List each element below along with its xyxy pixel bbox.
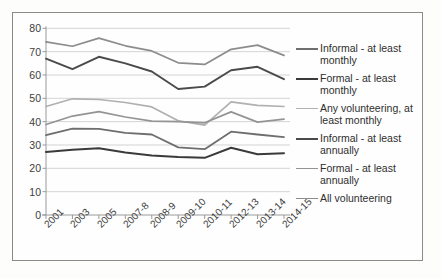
legend-item[interactable]: Informal - at least monthly [296,43,422,66]
line-chart-svg [13,13,290,262]
legend-item[interactable]: Formal - at least monthly [296,73,422,96]
legend-item[interactable]: All volunteering [296,193,422,205]
plot-area: 01020304050607080 2001200320052007-82008… [13,13,290,262]
series-line-formal-monthly [46,148,284,158]
legend-line-swatch [296,103,318,114]
chart-frame: 01020304050607080 2001200320052007-82008… [12,12,423,261]
legend-item[interactable]: Informal - at least annually [296,133,422,156]
series-line-formal-annually [46,57,284,89]
legend-line-swatch [296,193,318,204]
legend-item-label: Informal - at least monthly [320,43,422,66]
legend-item-label: Informal - at least annually [320,133,422,156]
legend-item[interactable]: Any volunteering, at least monthly [296,103,422,126]
legend-line-swatch [296,73,318,84]
legend-item-label: Formal - at least monthly [320,73,422,96]
chart-legend: Informal - at least monthlyFormal - at l… [296,43,422,212]
legend-item-label: All volunteering [320,193,392,205]
gridlines [46,28,290,191]
series-line-informal-monthly [46,129,284,150]
legend-line-swatch [296,163,318,174]
legend-item-label: Formal - at least annually [320,163,422,186]
legend-item[interactable]: Formal - at least annually [296,163,422,186]
axes [42,26,290,219]
legend-line-swatch [296,133,318,144]
legend-item-label: Any volunteering, at least monthly [320,103,422,126]
legend-line-swatch [296,43,318,54]
